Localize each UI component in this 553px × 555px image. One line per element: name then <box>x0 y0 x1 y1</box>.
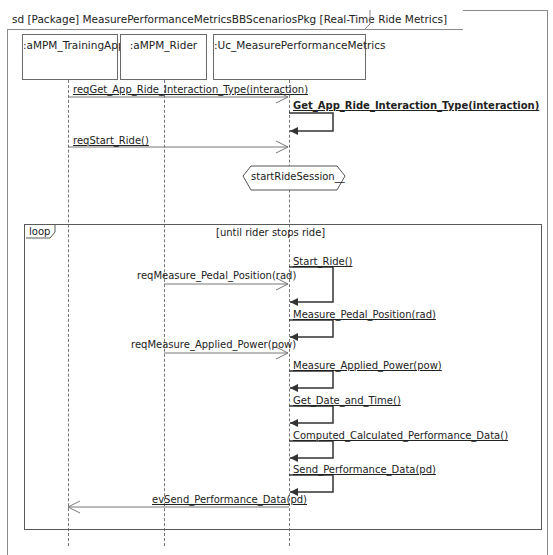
message-send-performance-data[interactable]: Send_Performance_Data(pd) <box>293 464 436 476</box>
lifeline-training-app[interactable]: :aMPM_TrainingApp <box>22 34 118 80</box>
message-measure-pedal-position[interactable]: Measure_Pedal_Position(rad) <box>293 309 436 321</box>
message-req-measure-applied-power[interactable]: reqMeasure_Applied_Power(pow) <box>131 339 296 351</box>
lifeline-label: :aMPM_TrainingApp <box>23 39 125 51</box>
message-req-get-app-ride-interaction-type[interactable]: reqGet_App_Ride_Interaction_Type(interac… <box>73 84 308 96</box>
diagram-title: sd [Package] MeasurePerformanceMetricsBB… <box>7 10 463 30</box>
loop-guard: [until rider stops ride] <box>216 227 325 238</box>
lifeline-uc-measure-performance-metrics[interactable]: :Uc_MeasurePerformanceMetrics <box>213 34 366 80</box>
lifeline-label: :aMPM_Rider <box>130 39 197 51</box>
message-measure-applied-power[interactable]: Measure_Applied_Power(pow) <box>293 360 442 372</box>
lifeline-label: :Uc_MeasurePerformanceMetrics <box>214 39 386 51</box>
lifeline-rider[interactable]: :aMPM_Rider <box>120 34 207 80</box>
message-get-app-ride-interaction-type[interactable]: Get_App_Ride_Interaction_Type(interactio… <box>293 100 539 112</box>
message-req-measure-pedal-position[interactable]: reqMeasure_Pedal_Position(rad) <box>137 270 296 282</box>
state-start-ride-session[interactable]: startRideSession__ <box>251 171 337 182</box>
message-start-ride[interactable]: Start_Ride() <box>293 256 352 268</box>
message-computed-calculated-performance-data[interactable]: Computed_Calculated_Performance_Data() <box>293 430 508 442</box>
message-get-date-and-time[interactable]: Get_Date_and_Time() <box>293 395 401 407</box>
loop-operator-label: loop <box>26 226 60 238</box>
message-req-start-ride[interactable]: reqStart_Ride() <box>73 135 149 147</box>
message-ev-send-performance-data[interactable]: evSend_Performance_Data(pd) <box>152 494 307 506</box>
